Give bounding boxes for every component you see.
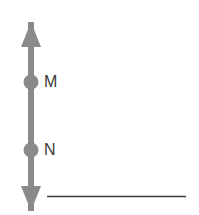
point-label-n: N <box>44 141 56 158</box>
point-dot-m <box>24 75 39 90</box>
diagram-canvas: M N <box>0 0 199 215</box>
arrow-shaft <box>28 22 34 211</box>
geometry-diagram: M N <box>0 0 199 215</box>
arrow-head-up-icon <box>21 22 41 47</box>
point-dot-n <box>24 143 39 158</box>
point-label-m: M <box>44 73 57 90</box>
arrow-head-down-icon <box>21 186 41 211</box>
